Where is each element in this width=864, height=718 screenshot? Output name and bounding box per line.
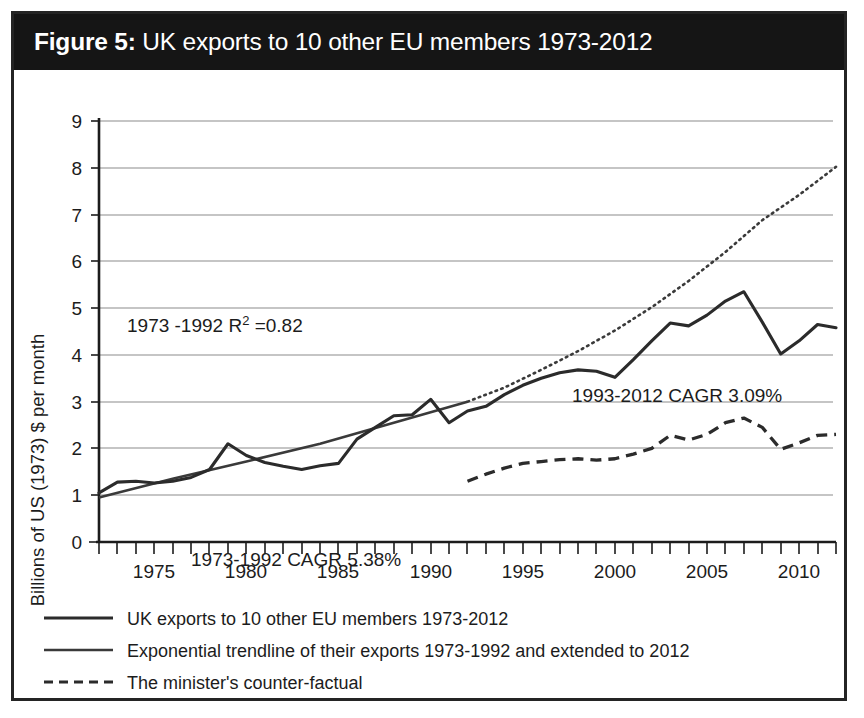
y-tick-label: 6	[71, 251, 82, 272]
legend-label-trendline: Exponential trendline of their exports 1…	[127, 641, 689, 661]
chart-plot-area: Billions of US (1973) $ per month	[14, 70, 844, 698]
x-tick-label: 2005	[686, 561, 728, 582]
x-tick-label: 2000	[594, 561, 636, 582]
figure-frame: Figure 5: UK exports to 10 other EU memb…	[11, 11, 847, 701]
series-line-counter-factual	[468, 418, 837, 481]
y-tick-label: 2	[71, 438, 82, 459]
x-tick-label: 1975	[133, 561, 175, 582]
gridlines	[99, 121, 833, 495]
y-tick-label: 7	[71, 205, 82, 226]
y-tick-label: 9	[71, 111, 82, 132]
y-tick-label: 3	[71, 392, 82, 413]
x-tick-label: 1990	[410, 561, 452, 582]
y-tick-label: 8	[71, 158, 82, 179]
y-tick-label: 4	[71, 345, 82, 366]
figure-title-main: UK exports to 10 other EU members 1973-2…	[142, 28, 652, 55]
figure-number-label: Figure 5:	[34, 28, 136, 55]
y-tick-marks	[89, 121, 99, 542]
chart-legend: UK exports to 10 other EU members 1973-2…	[44, 609, 689, 693]
y-tick-label: 0	[71, 532, 82, 553]
chart-svg: Billions of US (1973) $ per month	[14, 70, 844, 698]
y-tick-label: 1	[71, 485, 82, 506]
y-axis-title: Billions of US (1973) $ per month	[27, 334, 48, 607]
annotation-r-squared: 1973 -1992 R2 =0.82	[127, 313, 303, 336]
legend-label-counter-factual: The minister's counter-factual	[127, 673, 363, 693]
y-tick-labels: 9 8 7 6 5 4 3 2 1 0	[71, 111, 82, 553]
figure-title: Figure 5: UK exports to 10 other EU memb…	[34, 28, 653, 56]
x-tick-label: 2010	[778, 561, 820, 582]
annotation-cagr-1973-1992: 1973-1992 CAGR 5.38%	[191, 549, 401, 570]
annotation-cagr-1993-2012: 1993-2012 CAGR 3.09%	[572, 385, 782, 406]
legend-label-uk-exports: UK exports to 10 other EU members 1973-2…	[127, 609, 508, 629]
figure-title-bar: Figure 5: UK exports to 10 other EU memb…	[14, 14, 844, 70]
y-tick-label: 5	[71, 298, 82, 319]
figure-root: Figure 5: UK exports to 10 other EU memb…	[0, 0, 864, 718]
series-line-trendline-extended	[468, 167, 837, 402]
x-tick-label: 1995	[502, 561, 544, 582]
